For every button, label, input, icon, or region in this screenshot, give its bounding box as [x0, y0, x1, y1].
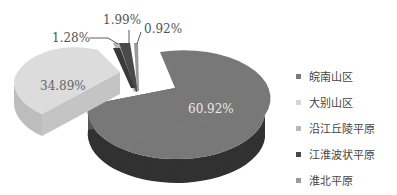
legend-label: 沿江丘陵平原 [309, 120, 375, 136]
label-jianghuai: 1.99% [103, 13, 141, 27]
leader-lines [90, 30, 141, 44]
legend-label: 淮北平原 [309, 172, 353, 188]
label-huaibei: 0.92% [144, 22, 182, 36]
label-yanjiang: 1.28% [52, 31, 90, 45]
label-dabie: 34.89% [40, 79, 86, 93]
legend-item-dabie: 大别山区 [296, 89, 375, 115]
label-wannan: 60.92% [188, 102, 234, 116]
legend-item-jianghuai: 江淮波状平原 [296, 141, 375, 167]
legend-swatch-icon [296, 152, 301, 157]
legend-swatch-icon [296, 178, 301, 183]
legend-label: 江淮波状平原 [309, 146, 375, 162]
legend-swatch-icon [296, 74, 301, 79]
legend-swatch-icon [296, 100, 301, 105]
legend-label: 大别山区 [309, 94, 353, 110]
legend-item-yanjiang: 沿江丘陵平原 [296, 115, 375, 141]
legend-item-wannan: 皖南山区 [296, 63, 375, 89]
legend-item-huaibei: 淮北平原 [296, 167, 375, 193]
legend-swatch-icon [296, 126, 301, 131]
legend-label: 皖南山区 [309, 68, 353, 84]
legend: 皖南山区 大别山区 沿江丘陵平原 江淮波状平原 淮北平原 [296, 63, 375, 193]
